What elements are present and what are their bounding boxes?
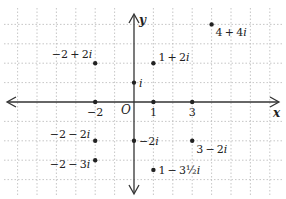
point-label: −2 + 2i xyxy=(52,48,92,61)
point-label: −2 − 2i xyxy=(50,128,90,141)
point-label: −2i xyxy=(139,135,159,148)
plotted-points: 4 + 4i−2 + 2i1 + 2ii−2 − 2i−2i3 − 2i−2 −… xyxy=(50,22,247,177)
complex-plane-diagram: x y O −213 4 + 4i−2 + 2i1 + 2ii−2 − 2i−2… xyxy=(0,0,286,199)
point-label: 1 − 3½i xyxy=(158,164,200,177)
point-marker xyxy=(151,61,155,65)
point-marker xyxy=(93,158,97,162)
point-label: 1 + 2i xyxy=(158,51,189,64)
axes: x y O xyxy=(7,13,281,194)
point-label: i xyxy=(139,77,143,90)
x-tick-labels: −213 xyxy=(87,106,196,119)
x-tick-label: −2 xyxy=(87,106,103,119)
point-marker xyxy=(209,22,213,26)
origin-label: O xyxy=(121,103,131,117)
point-marker xyxy=(190,139,194,143)
point-marker xyxy=(132,80,136,84)
y-axis-label: y xyxy=(138,13,147,27)
x-tick-label: 1 xyxy=(150,106,157,119)
point-marker xyxy=(151,168,155,172)
point-marker xyxy=(151,100,155,104)
point-label: 3 − 2i xyxy=(196,143,227,156)
point-marker xyxy=(93,61,97,65)
point-marker xyxy=(93,139,97,143)
point-label: 4 + 4i xyxy=(216,26,247,39)
x-tick-label: 3 xyxy=(189,106,196,119)
point-label: −2 − 3i xyxy=(50,158,90,171)
point-marker xyxy=(190,100,194,104)
point-marker xyxy=(132,139,136,143)
point-marker xyxy=(93,100,97,104)
x-axis-label: x xyxy=(272,106,281,120)
